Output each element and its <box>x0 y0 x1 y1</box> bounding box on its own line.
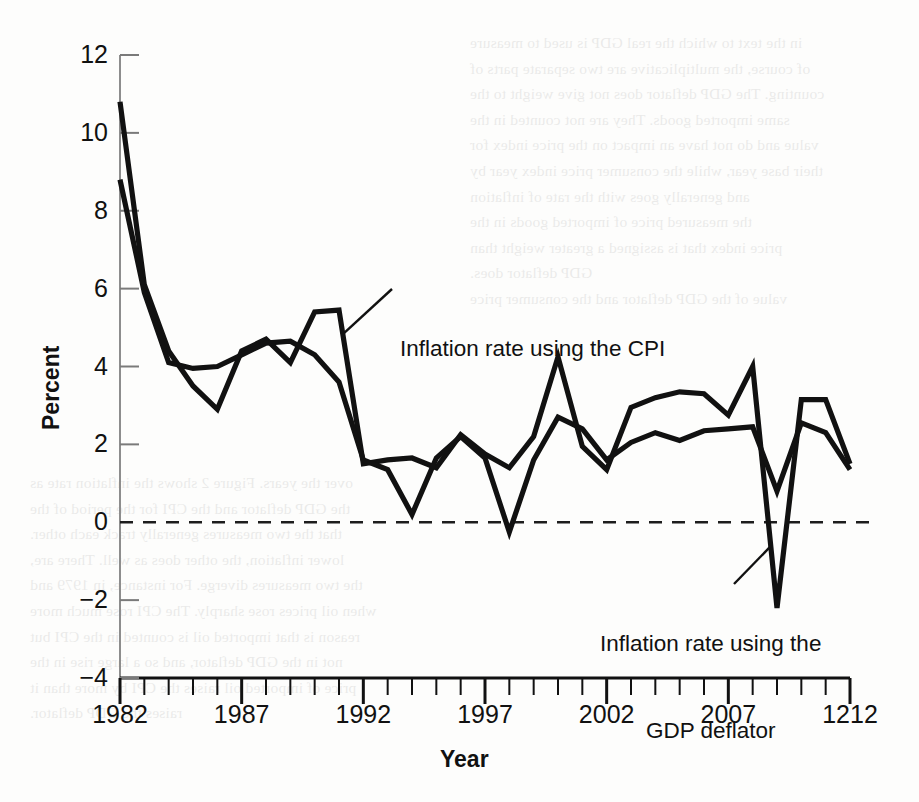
y-tick-label: −4 <box>50 663 108 692</box>
x-tick-label: 1982 <box>65 700 175 729</box>
y-tick-label: 0 <box>50 507 108 536</box>
annotation-gdp-deflator-line2: GDP deflator <box>600 716 821 745</box>
y-tick-label: 12 <box>50 40 108 69</box>
x-axis-title: Year <box>440 746 489 773</box>
annotation-gdp-deflator-line1: Inflation rate using the <box>600 629 821 658</box>
y-tick-label: 6 <box>50 274 108 303</box>
annotation-cpi: Inflation rate using the CPI <box>400 276 665 421</box>
y-tick-label: −2 <box>50 585 108 614</box>
inflation-chart: 121086420−2−4 19821987199219972002200712… <box>0 0 919 802</box>
y-axis-title: Percent <box>38 346 65 430</box>
x-tick-label: 1992 <box>308 700 418 729</box>
y-tick-label: 10 <box>50 118 108 147</box>
y-tick-label: 2 <box>50 429 108 458</box>
x-tick-label: 1987 <box>187 700 297 729</box>
y-tick-label: 8 <box>50 196 108 225</box>
x-tick-label: 1997 <box>430 700 540 729</box>
annotation-gdp-deflator: Inflation rate using the GDP deflator <box>600 571 821 802</box>
annotation-cpi-line1: Inflation rate using the CPI <box>400 334 665 363</box>
figure-page: in the text to which the real GDP is use… <box>0 0 919 802</box>
